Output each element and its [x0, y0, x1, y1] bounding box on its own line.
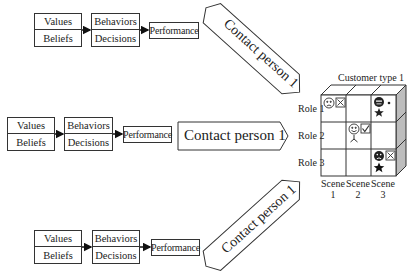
beliefs-label: Beliefs: [35, 247, 81, 263]
contact-person-label-middle: Contact person 1: [184, 127, 286, 144]
values-beliefs-box-bottom: Values Beliefs: [34, 230, 82, 264]
filled-sad-face-icon: [374, 151, 384, 161]
scene-2-label: Scene 2: [345, 178, 371, 200]
performance-box-middle: Performance: [123, 126, 172, 143]
performance-box-bottom: Performance: [151, 239, 200, 256]
beliefs-label: Beliefs: [8, 134, 54, 150]
role-2-label: Role 2: [298, 130, 324, 141]
scene-1-label: Scene 1: [320, 178, 346, 200]
performance-box-top: Performance: [149, 22, 199, 39]
values-label: Values: [35, 231, 81, 247]
behaviors-decisions-box-bottom: Behaviors Decisions: [92, 230, 140, 264]
decisions-label: Decisions: [65, 134, 112, 150]
values-label: Values: [8, 118, 54, 134]
values-beliefs-box-top: Values Beliefs: [34, 13, 82, 47]
dot-icon: [388, 102, 391, 105]
values-beliefs-box-middle: Values Beliefs: [7, 117, 55, 151]
behaviors-decisions-box-middle: Behaviors Decisions: [64, 117, 113, 151]
behaviors-decisions-box-top: Behaviors Decisions: [91, 13, 140, 47]
decisions-label: Decisions: [92, 30, 139, 46]
behaviors-label: Behaviors: [93, 231, 139, 247]
scene-3-label: Scene 3: [370, 178, 396, 200]
role-3-label: Role 3: [298, 157, 324, 168]
behaviors-label: Behaviors: [92, 14, 139, 30]
behaviors-label: Behaviors: [65, 118, 112, 134]
cube-title: Customer type 1: [338, 72, 404, 83]
decisions-label: Decisions: [93, 247, 139, 263]
role-1-label: Role 1: [298, 103, 324, 114]
values-label: Values: [35, 14, 81, 30]
filled-face-icon: [374, 97, 384, 107]
beliefs-label: Beliefs: [35, 30, 81, 46]
